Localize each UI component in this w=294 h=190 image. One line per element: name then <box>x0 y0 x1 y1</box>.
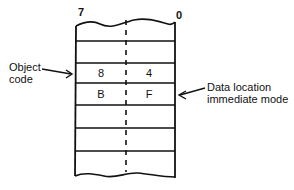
cell-high-nibble: 8 <box>91 67 111 79</box>
cell-low-nibble: F <box>139 88 159 100</box>
object-code-label: Object code <box>9 61 41 85</box>
data-location-label: Data location immediate mode <box>207 81 288 105</box>
cell-high-nibble: B <box>91 88 111 100</box>
cell-low-nibble: 4 <box>139 67 159 79</box>
bit-0-label: 0 <box>176 9 182 21</box>
bit-7-label: 7 <box>78 6 84 18</box>
